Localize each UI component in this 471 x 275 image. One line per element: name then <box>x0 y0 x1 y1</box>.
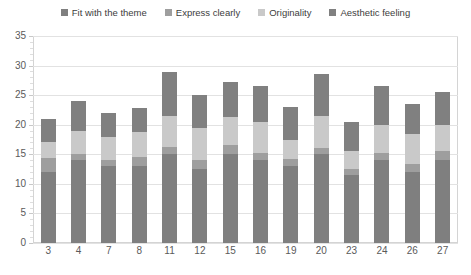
stacked-bar[interactable] <box>41 119 56 243</box>
y-axis-minor-tick-mark <box>30 202 33 203</box>
stacked-bar-chart: Fit with the themeExpress clearlyOrigina… <box>0 0 471 275</box>
bar-segment[interactable] <box>71 131 86 155</box>
x-axis-tick-label: 11 <box>155 246 185 256</box>
y-axis-minor-tick-mark <box>30 231 33 232</box>
stacked-bar[interactable] <box>192 95 207 243</box>
bar-segment[interactable] <box>253 86 268 121</box>
legend-item[interactable]: Aesthetic feeling <box>329 8 410 18</box>
bar-segment[interactable] <box>223 117 238 145</box>
bar-column[interactable] <box>338 36 366 243</box>
bar-segment[interactable] <box>223 82 238 117</box>
bar-segment[interactable] <box>314 154 329 243</box>
bar-segment[interactable] <box>435 151 450 160</box>
y-axis-tick-label: 5 <box>0 208 26 218</box>
bar-segment[interactable] <box>435 125 450 152</box>
legend-item[interactable]: Express clearly <box>165 8 240 18</box>
stacked-bar[interactable] <box>435 92 450 243</box>
bar-segment[interactable] <box>132 132 147 157</box>
bar-segment[interactable] <box>223 145 238 154</box>
bar-segment[interactable] <box>162 72 177 116</box>
bar-segment[interactable] <box>71 160 86 243</box>
legend-item[interactable]: Originality <box>258 8 311 18</box>
bar-segment[interactable] <box>405 104 420 134</box>
x-axis-tick-label: 7 <box>94 246 124 256</box>
bar-segment[interactable] <box>253 122 268 153</box>
bar-segment[interactable] <box>344 175 359 243</box>
legend-item[interactable]: Fit with the theme <box>61 8 147 18</box>
bar-segment[interactable] <box>314 116 329 149</box>
bar-segment[interactable] <box>435 92 450 125</box>
bar-segment[interactable] <box>132 108 147 132</box>
bar-segment[interactable] <box>192 95 207 128</box>
bar-segment[interactable] <box>344 151 359 169</box>
bar-segment[interactable] <box>101 113 116 137</box>
bar-column[interactable] <box>65 36 93 243</box>
bar-column[interactable] <box>368 36 396 243</box>
bar-segment[interactable] <box>283 140 298 160</box>
bar-segment[interactable] <box>41 172 56 243</box>
bar-column[interactable] <box>95 36 123 243</box>
bar-segment[interactable] <box>283 107 298 140</box>
y-axis-minor-tick-mark <box>30 196 33 197</box>
bar-segment[interactable] <box>253 153 268 161</box>
bar-segment[interactable] <box>223 154 238 243</box>
bar-column[interactable] <box>307 36 335 243</box>
bar-segment[interactable] <box>253 160 268 243</box>
y-axis-minor-tick-mark <box>30 101 33 102</box>
bar-segment[interactable] <box>283 166 298 243</box>
bar-segment[interactable] <box>132 166 147 243</box>
stacked-bar[interactable] <box>162 72 177 243</box>
stacked-bar[interactable] <box>405 104 420 243</box>
bar-segment[interactable] <box>101 166 116 243</box>
bar-column[interactable] <box>186 36 214 243</box>
bar-column[interactable] <box>156 36 184 243</box>
y-axis-tick-label: 35 <box>0 31 26 41</box>
stacked-bar[interactable] <box>132 108 147 243</box>
bar-segment[interactable] <box>41 119 56 143</box>
bar-segment[interactable] <box>162 147 177 154</box>
y-axis-minor-tick-mark <box>30 142 33 143</box>
stacked-bar[interactable] <box>223 82 238 243</box>
stacked-bar[interactable] <box>101 113 116 243</box>
bar-segment[interactable] <box>192 160 207 169</box>
bar-segment[interactable] <box>374 125 389 153</box>
bar-column[interactable] <box>247 36 275 243</box>
bar-segment[interactable] <box>435 160 450 243</box>
bar-segment[interactable] <box>71 101 86 131</box>
bar-column[interactable] <box>277 36 305 243</box>
x-axis-tick-label: 20 <box>306 246 336 256</box>
bar-column[interactable] <box>216 36 244 243</box>
bar-segment[interactable] <box>374 153 389 160</box>
bar-segment[interactable] <box>314 74 329 115</box>
legend-item-label: Fit with the theme <box>72 8 147 18</box>
gridline <box>33 243 458 244</box>
bar-segment[interactable] <box>374 160 389 243</box>
stacked-bar[interactable] <box>374 86 389 243</box>
bar-segment[interactable] <box>162 116 177 147</box>
bar-segment[interactable] <box>162 154 177 243</box>
stacked-bar[interactable] <box>71 101 86 243</box>
bar-segment[interactable] <box>405 134 420 165</box>
legend-swatch-icon <box>165 9 172 16</box>
bar-segment[interactable] <box>374 86 389 124</box>
bar-segment[interactable] <box>344 122 359 152</box>
y-axis-minor-tick-mark <box>30 172 33 173</box>
stacked-bar[interactable] <box>253 86 268 243</box>
stacked-bar[interactable] <box>344 122 359 243</box>
bar-column[interactable] <box>429 36 457 243</box>
bar-segment[interactable] <box>192 128 207 161</box>
bar-segment[interactable] <box>405 164 420 172</box>
bar-segment[interactable] <box>41 142 56 158</box>
bar-column[interactable] <box>125 36 153 243</box>
y-axis-minor-tick-mark <box>30 166 33 167</box>
bar-column[interactable] <box>34 36 62 243</box>
bar-segment[interactable] <box>132 157 147 166</box>
stacked-bar[interactable] <box>283 107 298 243</box>
bar-segment[interactable] <box>41 158 56 172</box>
bar-segment[interactable] <box>101 137 116 161</box>
bar-segment[interactable] <box>192 169 207 243</box>
bar-segment[interactable] <box>405 172 420 243</box>
bar-segment[interactable] <box>283 159 298 166</box>
stacked-bar[interactable] <box>314 74 329 243</box>
bar-column[interactable] <box>398 36 426 243</box>
